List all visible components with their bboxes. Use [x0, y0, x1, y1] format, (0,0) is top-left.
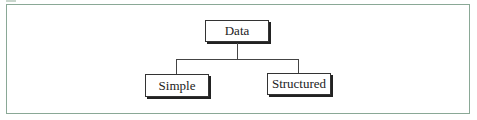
top-marker	[6, 0, 16, 2]
connector-root-stem	[237, 43, 238, 59]
connector-right-stem	[298, 59, 299, 73]
node-simple: Simple	[145, 74, 209, 97]
node-simple-label: Simple	[159, 78, 196, 94]
node-data: Data	[205, 20, 269, 42]
node-structured: Structured	[267, 73, 331, 95]
connector-left-stem	[176, 59, 177, 74]
node-data-label: Data	[225, 23, 250, 39]
connector-horizontal	[176, 59, 299, 60]
node-structured-label: Structured	[272, 76, 326, 92]
